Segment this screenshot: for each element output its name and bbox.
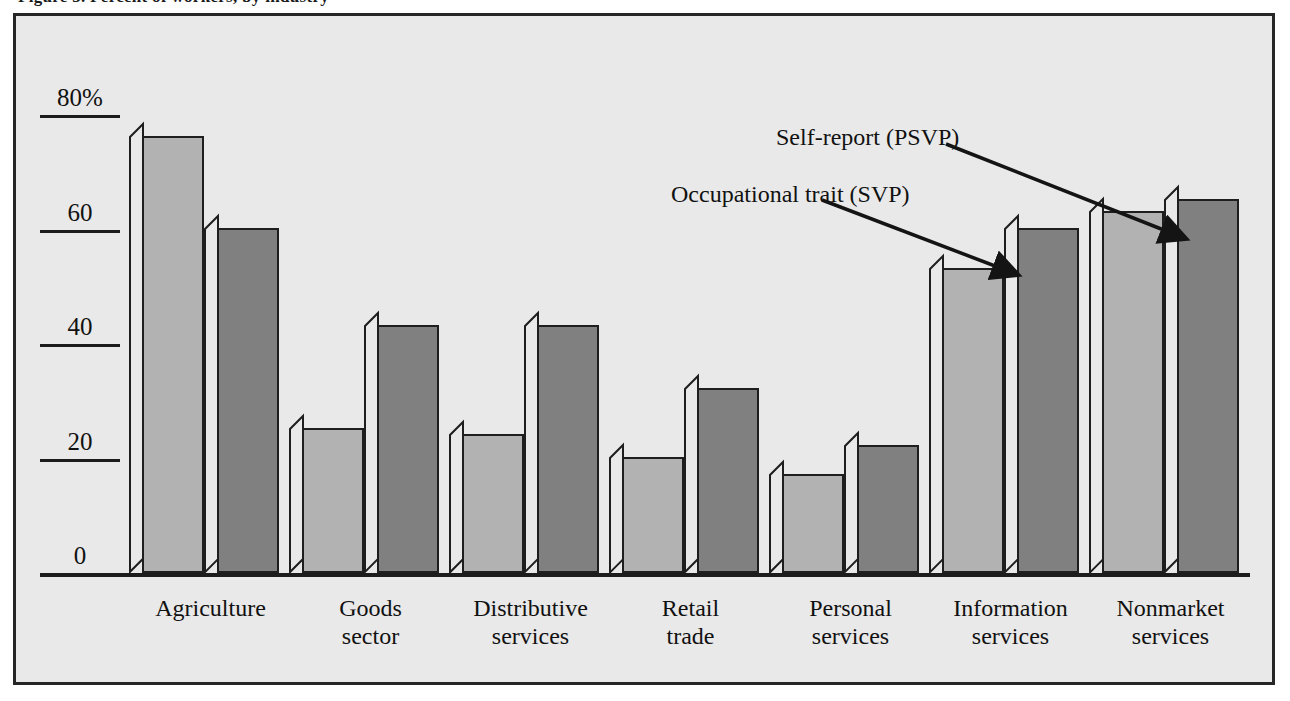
clipped-title-strip: Figure 3. Percent of workers, by industr… — [0, 0, 1290, 13]
bar-front-face — [857, 445, 919, 573]
y-tick-rule — [40, 230, 120, 233]
y-tick-label: 20 — [40, 429, 120, 454]
bar-6-self-report — [1102, 200, 1164, 573]
x-axis-label-line1: Retail — [662, 595, 719, 621]
x-axis-line — [40, 573, 1250, 577]
y-tick-label: 0 — [40, 543, 120, 568]
x-axis-label-line1: Nonmarket — [1117, 595, 1225, 621]
bar-3-self-report — [622, 446, 684, 573]
bar-front-face — [302, 428, 364, 573]
y-tick-label: 80% — [40, 85, 120, 110]
annotation-self-report: Self-report (PSVP) — [776, 124, 959, 151]
bar-6-occupational-trait — [1177, 188, 1239, 573]
x-axis-label-line1: Goods — [339, 595, 402, 621]
y-tick-rule — [40, 344, 120, 347]
x-axis-label-6: Nonmarketservices — [1062, 595, 1279, 650]
y-tick-rule — [40, 115, 120, 118]
y-tick-rule — [40, 459, 120, 462]
bar-front-face — [1017, 228, 1079, 573]
bar-front-face — [1177, 199, 1239, 573]
bar-front-face — [622, 457, 684, 573]
bar-0-occupational-trait — [217, 217, 279, 573]
bar-1-self-report — [302, 417, 364, 573]
figure-frame: 80%6040200 AgricultureGoodssectorDistrib… — [13, 13, 1275, 685]
bar-front-face — [697, 388, 759, 573]
bar-front-face — [942, 268, 1004, 573]
bar-front-face — [782, 474, 844, 573]
bar-front-face — [462, 434, 524, 573]
plot-area: 80%6040200 AgricultureGoodssectorDistrib… — [16, 16, 1272, 682]
bar-front-face — [217, 228, 279, 573]
bar-1-occupational-trait — [377, 314, 439, 573]
figure-title: Figure 3. Percent of workers, by industr… — [18, 0, 329, 7]
bar-front-face — [142, 136, 204, 573]
bar-2-self-report — [462, 423, 524, 573]
bar-2-occupational-trait — [537, 314, 599, 573]
bar-5-self-report — [942, 257, 1004, 573]
bar-4-self-report — [782, 463, 844, 573]
x-axis-label-line1: Distributive — [473, 595, 588, 621]
x-axis-label-line1: Agriculture — [155, 595, 266, 621]
bar-5-occupational-trait — [1017, 217, 1079, 573]
x-axis-label-line1: Personal — [809, 595, 892, 621]
y-tick-label: 60 — [40, 200, 120, 225]
x-axis-label-line2: services — [1062, 623, 1279, 651]
bar-3-occupational-trait — [697, 377, 759, 573]
bar-4-occupational-trait — [857, 434, 919, 573]
bar-front-face — [1102, 211, 1164, 573]
bar-front-face — [377, 325, 439, 573]
annotation-occupational-trait: Occupational trait (SVP) — [671, 181, 910, 208]
y-tick-label: 40 — [40, 314, 120, 339]
bar-front-face — [537, 325, 599, 573]
x-axis-label-line1: Information — [953, 595, 1068, 621]
bar-0-self-report — [142, 125, 204, 573]
